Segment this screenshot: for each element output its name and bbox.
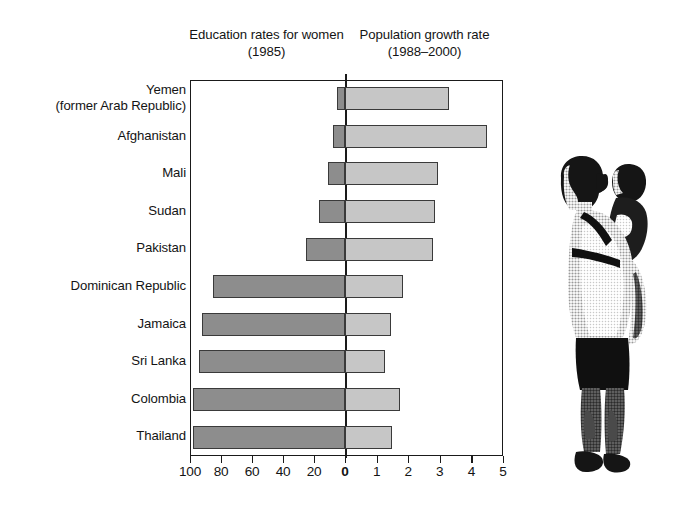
category-label: Thailand — [0, 428, 186, 444]
woman-carrying-child-photo — [520, 140, 673, 502]
education-rate-bar — [333, 125, 345, 148]
heading-population-growth: Population growth rate (1988–2000) — [345, 26, 504, 60]
category-label: Colombia — [0, 391, 186, 407]
category-label: Sri Lanka — [0, 353, 186, 369]
education-rate-bar — [193, 426, 345, 449]
heading-education-rates: Education rates for women (1985) — [188, 26, 345, 60]
population-growth-bar — [345, 238, 433, 261]
axis-tick — [440, 456, 441, 463]
education-rate-bar — [337, 87, 345, 110]
axis-tick — [408, 456, 409, 463]
axis-tick — [345, 456, 346, 463]
population-growth-bar — [345, 350, 385, 373]
education-rate-bar — [202, 313, 345, 336]
category-label: Sudan — [0, 203, 186, 219]
population-growth-bar — [345, 426, 392, 449]
category-label: Mali — [0, 165, 186, 181]
axis-tick — [377, 456, 378, 463]
category-label: Dominican Republic — [0, 278, 186, 294]
education-rate-bar — [193, 388, 345, 411]
category-label: Jamaica — [0, 316, 186, 332]
category-label: Pakistan — [0, 240, 186, 256]
education-rate-bar — [328, 162, 345, 185]
population-growth-bar — [345, 275, 403, 298]
education-rate-bar — [199, 350, 345, 373]
education-rate-bar — [213, 275, 345, 298]
chart-row: Yemen (former Arab Republic) — [0, 80, 673, 118]
x-axis: 10080604020012345 — [190, 456, 503, 490]
category-label: Yemen (former Arab Republic) — [0, 82, 186, 113]
population-growth-bar — [345, 125, 487, 148]
population-growth-bar — [345, 87, 449, 110]
axis-tick — [503, 456, 504, 463]
axis-tick — [314, 456, 315, 463]
population-growth-bar — [345, 313, 391, 336]
axis-tick — [283, 456, 284, 463]
axis-tick — [190, 456, 191, 463]
population-growth-bar — [345, 162, 438, 185]
category-label: Afghanistan — [0, 128, 186, 144]
axis-tick — [471, 456, 472, 463]
population-growth-bar — [345, 200, 435, 223]
column-headings: Education rates for women (1985) Populat… — [188, 26, 504, 74]
population-growth-bar — [345, 388, 400, 411]
axis-tick — [221, 456, 222, 463]
education-rate-bar — [306, 238, 345, 261]
axis-tick-label: 5 — [483, 464, 523, 480]
education-rate-bar — [319, 200, 345, 223]
axis-tick — [252, 456, 253, 463]
